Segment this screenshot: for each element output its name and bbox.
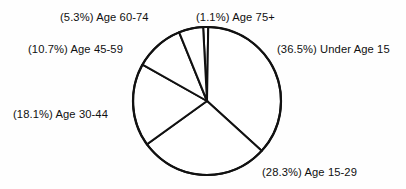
pie-label-age-30-44: (18.1%) Age 30-44 <box>13 108 108 120</box>
pie-chart-figure: (5.3%) Age 60-74 (1.1%) Age 75+ (10.7%) … <box>0 0 406 189</box>
pie-label-age-60-74: (5.3%) Age 60-74 <box>60 11 149 23</box>
pie-label-age-45-59: (10.7%) Age 45-59 <box>28 43 123 55</box>
pie-label-under-age-15: (36.5%) Under Age 15 <box>277 43 390 55</box>
pie-label-age-75-plus: (1.1%) Age 75+ <box>196 11 275 23</box>
pie-chart-canvas <box>0 0 406 189</box>
pie-label-age-15-29: (28.3%) Age 15-29 <box>262 166 357 178</box>
